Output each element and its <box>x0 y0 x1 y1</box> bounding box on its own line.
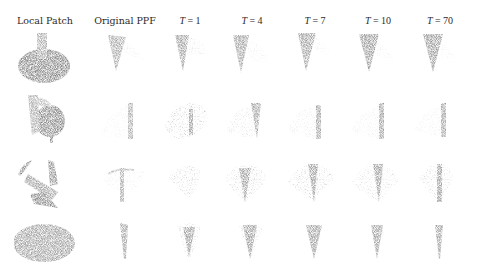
row2-t10 <box>347 91 409 149</box>
row4-local-patch <box>14 213 76 263</box>
row4-t4 <box>221 211 283 263</box>
row2-t1 <box>159 91 221 149</box>
row2-t70 <box>409 91 471 149</box>
row1-t7 <box>284 23 346 81</box>
row3-original-ppf <box>94 156 156 214</box>
row1-t1 <box>159 23 221 81</box>
row1-original-ppf <box>94 23 156 81</box>
row2-t4 <box>221 91 283 149</box>
row1-local-patch <box>14 28 76 86</box>
row1-t70 <box>409 24 471 82</box>
row3-t1 <box>159 154 221 212</box>
row3-local-patch <box>14 156 76 214</box>
row4-t10 <box>347 211 409 263</box>
row1-t10 <box>347 24 409 82</box>
row3-t70 <box>409 154 471 212</box>
row2-t7 <box>284 91 346 149</box>
header-local-patch: Local Patch <box>17 15 73 26</box>
row3-t7 <box>284 154 346 212</box>
row4-t7 <box>284 211 346 263</box>
row2-local-patch <box>14 91 76 149</box>
row2-original-ppf <box>94 91 156 149</box>
row4-original-ppf <box>94 211 156 263</box>
row4-t1 <box>159 211 221 263</box>
row3-t4 <box>221 154 283 212</box>
row4-t70 <box>409 211 471 263</box>
row1-t4 <box>221 25 283 83</box>
row3-t10 <box>347 154 409 212</box>
